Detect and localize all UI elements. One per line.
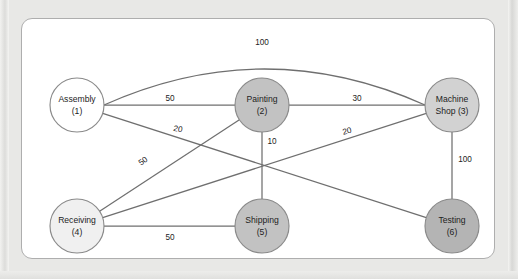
figure-panel — [21, 18, 495, 259]
scan-edge-bottom — [0, 271, 518, 279]
diagram-screenshot: 10050302050201010050 Assembly(1)Painting… — [0, 0, 518, 279]
scan-edge-left — [0, 0, 9, 279]
scan-edge-right — [508, 0, 518, 279]
